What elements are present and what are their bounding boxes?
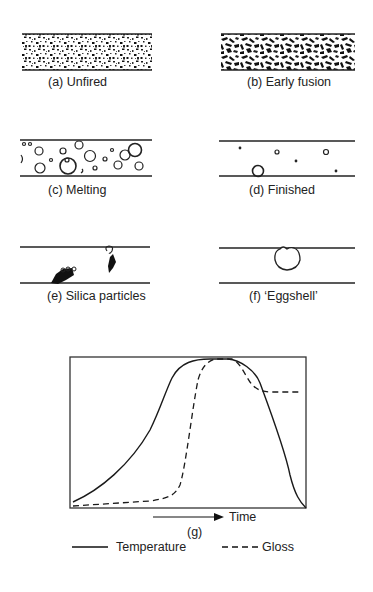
label-panel-e: (e) Silica particles: [47, 289, 146, 303]
firing-graph: [70, 357, 306, 547]
panel-a-unfired: [22, 34, 152, 70]
legend-gloss-label: Gloss: [262, 540, 294, 554]
graph-frame: [70, 357, 306, 508]
panel-f-eggshell: [219, 247, 355, 283]
label-panel-a: (a) Unfired: [48, 75, 107, 89]
label-panel-c: (c) Melting: [48, 183, 106, 197]
legend-temperature-label: Temperature: [116, 540, 186, 554]
x-axis-label: Time: [229, 510, 256, 524]
gloss-curve: [73, 359, 300, 506]
label-panel-b: (b) Early fusion: [247, 75, 331, 89]
label-panel-f: (f) ‘Eggshell’: [249, 289, 318, 303]
panel-e-silica-particles: [20, 246, 150, 284]
panel-d-finished: [219, 141, 355, 177]
panel-b-early-fusion: [221, 34, 355, 70]
panel-c-melting: [20, 140, 152, 176]
graph-caption: (g): [187, 525, 202, 539]
time-arrow-head: [214, 513, 224, 521]
label-panel-d: (d) Finished: [249, 183, 315, 197]
